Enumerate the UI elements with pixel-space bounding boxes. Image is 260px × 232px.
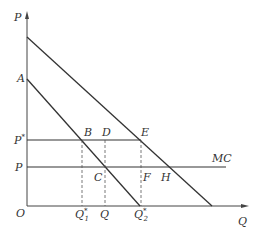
p-star-label: P*	[13, 133, 25, 147]
x-axis-arrow-icon	[241, 204, 249, 208]
q1-star-sub: 1	[85, 215, 89, 223]
q-label: Q	[100, 208, 109, 221]
origin-label: O	[16, 207, 25, 220]
q2-star-sup: *	[143, 207, 147, 215]
q1-star-base: Q	[75, 208, 84, 221]
point-c-label: C	[94, 171, 103, 184]
axes	[25, 11, 249, 208]
q1-star-label: Q*1	[75, 207, 89, 223]
point-d-label: D	[101, 126, 111, 139]
y-axis-label: P	[13, 11, 22, 24]
economics-diagram: P Q O A P* P Q*1 Q Q*2 B D E C F H MC	[0, 0, 260, 232]
upper-demand-line	[27, 37, 212, 206]
intercept-label-a: A	[16, 72, 25, 85]
mc-label: MC	[211, 152, 232, 165]
y-axis-arrow-icon	[25, 11, 29, 19]
q2-star-sub: 2	[143, 215, 149, 223]
q2-star-base: Q	[134, 208, 143, 221]
point-f-label: F	[142, 171, 151, 184]
x-axis-label: Q	[238, 215, 247, 228]
q2-star-label: Q*2	[134, 207, 149, 223]
p-star-sup: *	[21, 133, 25, 141]
point-e-label: E	[140, 126, 149, 139]
q1-star-sup: *	[84, 207, 88, 215]
lower-demand-line	[27, 79, 140, 206]
p-label: P	[14, 161, 23, 174]
point-h-label: H	[160, 171, 171, 184]
point-b-label: B	[83, 126, 92, 139]
